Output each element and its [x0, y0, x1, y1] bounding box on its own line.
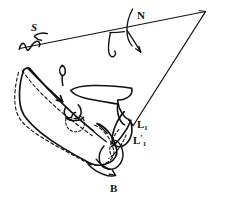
landmark-label-sella: S: [31, 22, 37, 33]
mandible-outline: [19, 68, 116, 165]
landmark-label-lower-incisor: L1: [137, 119, 148, 131]
oval-marker: [60, 65, 66, 85]
mandible-superimposed-outline: [15, 71, 114, 166]
sella-nasion-line: [20, 12, 206, 49]
label-L1-subscript: 1: [144, 124, 147, 131]
apex-vertex-mark: [199, 11, 206, 17]
nasal-bone-profile: [108, 9, 140, 57]
figure-caption-label: B: [110, 183, 117, 194]
apex-to-incisor-line: [133, 12, 205, 126]
landmark-label-lower-incisor-superimposed: L′1: [133, 134, 146, 147]
cephalometric-figure: S N L1 L′1 B: [0, 0, 227, 207]
label-L1p-subscript: 1: [143, 140, 146, 147]
reference-lines-group: [20, 11, 206, 126]
landmark-label-nasion: N: [137, 10, 145, 21]
symphysis-inner-outline: [88, 140, 122, 176]
